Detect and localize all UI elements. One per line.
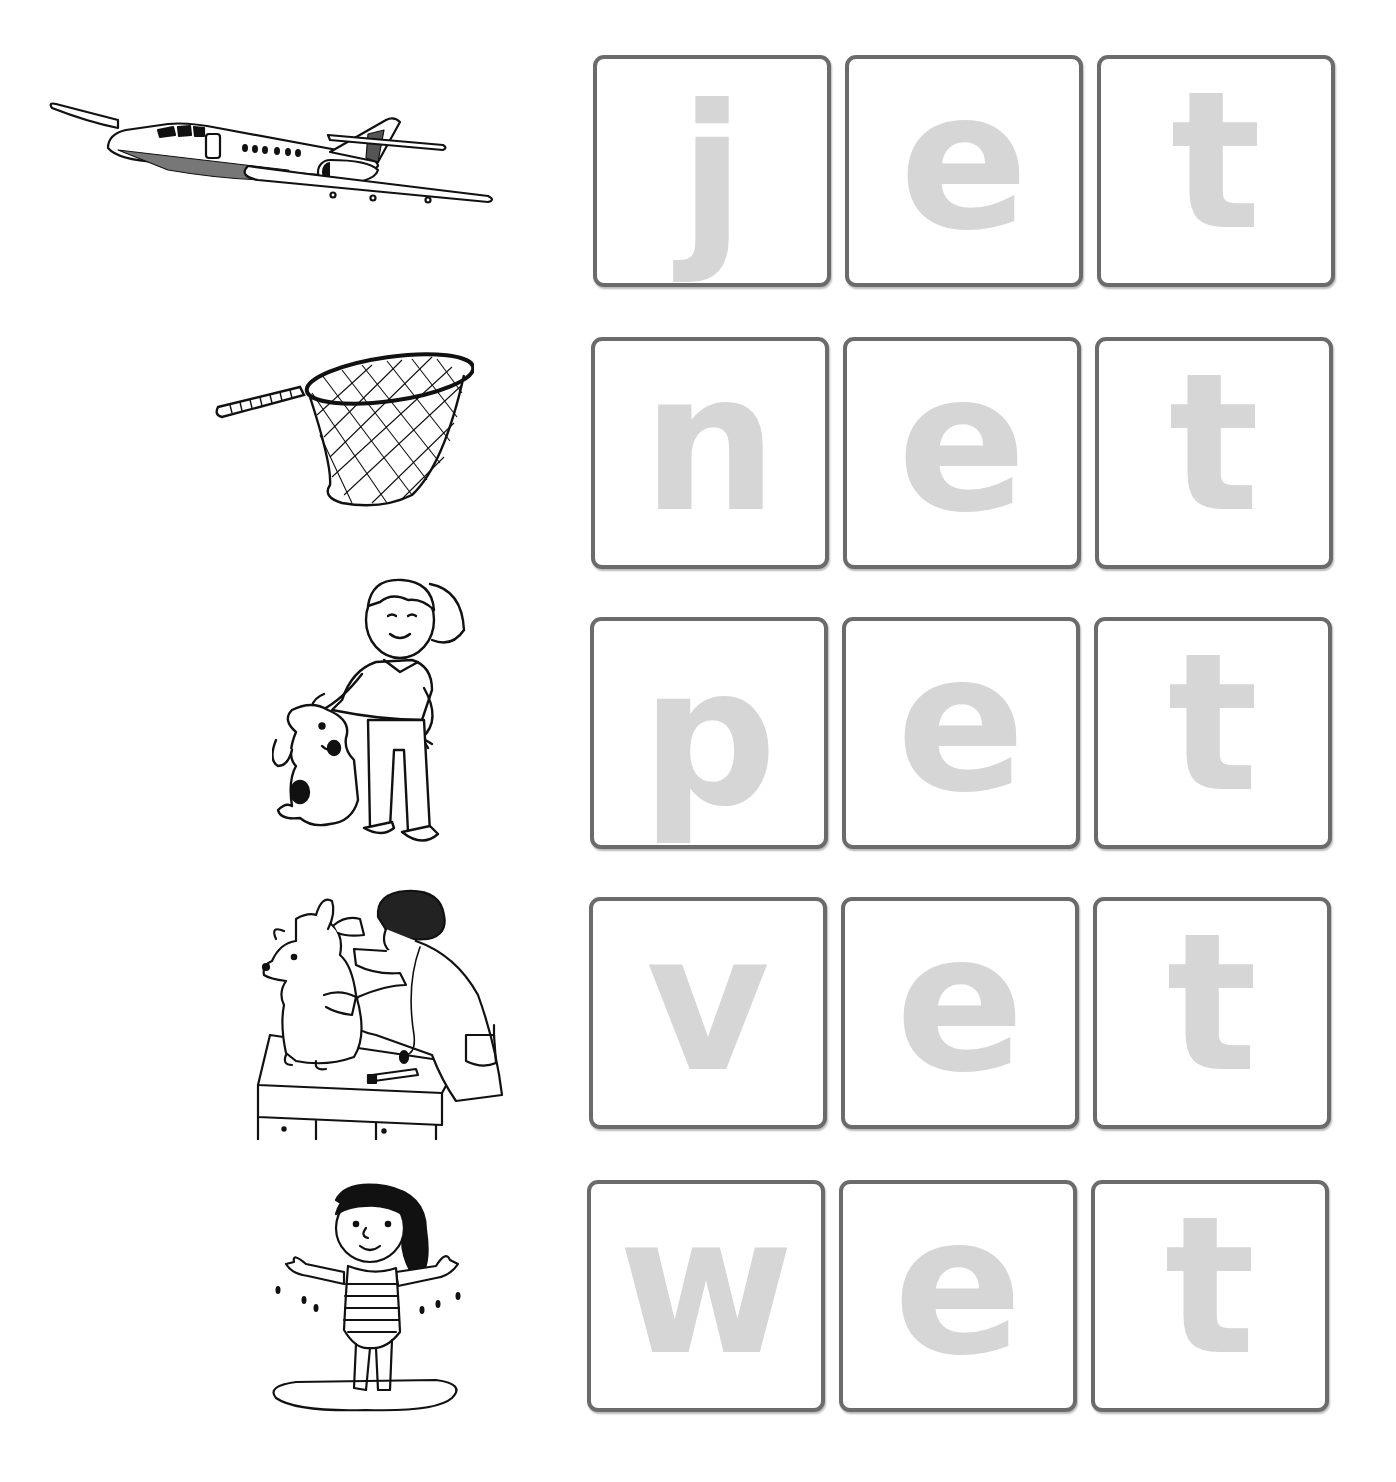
letter: e (896, 909, 1025, 1099)
letter: t (1169, 349, 1260, 539)
letter-tiles: w e t (587, 1180, 1329, 1412)
letter: t (1168, 629, 1259, 819)
letter: p (641, 643, 777, 833)
letter-tile: n (591, 337, 829, 569)
letter: t (1167, 909, 1258, 1099)
letter-tile: p (590, 617, 828, 849)
word-row-wet: w e t (0, 0, 1396, 240)
letter-tile: t (1093, 897, 1331, 1129)
letter-tile: t (1094, 617, 1332, 849)
letter-tiles: p e t (590, 617, 1332, 849)
letter: v (646, 909, 770, 1099)
letter: n (642, 349, 777, 539)
veterinarian-examining-dog-icon (256, 885, 528, 1140)
letter-tiles: v e t (589, 897, 1331, 1129)
letter-tile: t (1091, 1180, 1329, 1412)
wet-girl-in-swimsuit-icon (266, 1180, 476, 1415)
letter: e (897, 629, 1026, 819)
letter-tile: v (589, 897, 827, 1129)
letter: e (898, 349, 1027, 539)
letter-tile: e (841, 897, 1079, 1129)
letter: e (894, 1192, 1023, 1382)
letter-tile: e (843, 337, 1081, 569)
letter-tiles: n e t (591, 337, 1333, 569)
letter-tile: t (1095, 337, 1333, 569)
letter-tile: w (587, 1180, 825, 1412)
letter-tile: e (839, 1180, 1077, 1412)
letter: w (618, 1192, 794, 1382)
letter-tile: e (842, 617, 1080, 849)
girl-petting-dog-icon (272, 570, 472, 860)
butterfly-net-icon (212, 345, 474, 510)
letter: t (1165, 1192, 1256, 1382)
